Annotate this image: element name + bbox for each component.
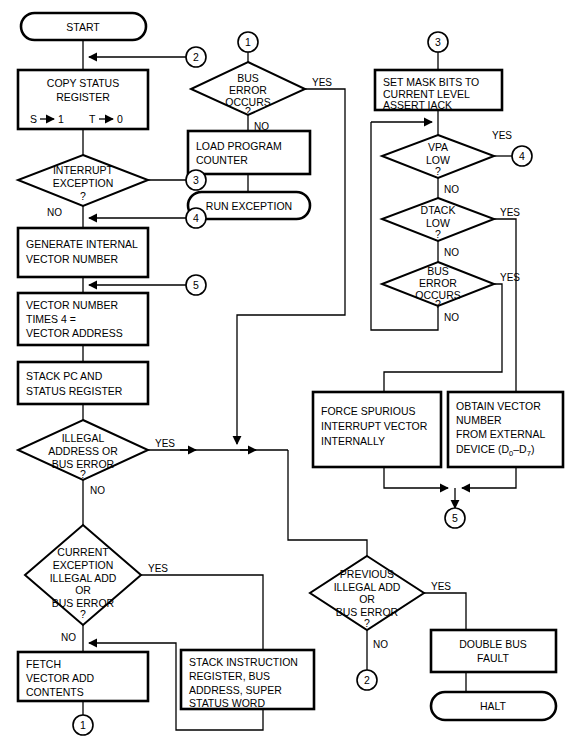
fetch-vector-line3: CONTENTS xyxy=(26,686,84,698)
run-exception-label: RUN EXCEPTION xyxy=(206,200,292,212)
connector-tag-1-middle-top: 1 xyxy=(238,32,258,52)
process-stack-instruction: STACK INSTRUCTION REGISTER, BUS ADDRESS,… xyxy=(181,650,314,709)
connector-tag-3-left-label: 3 xyxy=(193,174,199,186)
right-bus-error-no-label: NO xyxy=(444,312,459,323)
terminal-halt: HALT xyxy=(431,692,556,720)
dtack-low-no-label: NO xyxy=(444,247,459,258)
connector-tag-3-right-top-label: 3 xyxy=(435,36,441,48)
copy-status-s: S xyxy=(30,113,37,125)
connector-tag-3-left: 3 xyxy=(186,170,206,190)
interrupt-exception-line1: INTERRUPT xyxy=(53,164,114,176)
connector-tag-2-left: 2 xyxy=(186,47,206,67)
connector-tag-4-left: 4 xyxy=(186,208,206,228)
interrupt-exception-line3: ? xyxy=(80,190,86,202)
fetch-vector-line2: VECTOR ADD xyxy=(26,672,94,684)
decision-illegal-address-or-bus-error: ILLEGAL ADDRESS OR BUS ERROR ? YES NO xyxy=(18,420,175,496)
current-exception-no-label: NO xyxy=(61,632,76,643)
right-bus-error-line4: ? xyxy=(435,298,441,310)
current-exception-yes-label: YES xyxy=(148,563,168,574)
copy-status-line1: COPY STATUS xyxy=(47,77,119,89)
illegal-address-no-label: NO xyxy=(90,485,105,496)
connector-tag-4-vpa: 4 xyxy=(512,146,532,166)
process-force-spurious: FORCE SPURIOUS INTERRUPT VECTOR INTERNAL… xyxy=(313,392,441,467)
mid-bus-error-line4: ? xyxy=(245,105,251,117)
interrupt-exception-no-label: NO xyxy=(47,207,62,218)
connector-tag-5-merge: 5 xyxy=(445,508,465,528)
mid-bus-error-yes-label: YES xyxy=(312,77,332,88)
set-mask-line1: SET MASK BITS TO xyxy=(383,76,479,88)
stack-instruction-line3: ADDRESS, SUPER xyxy=(189,684,282,696)
connector-tag-2-left-label: 2 xyxy=(193,51,199,63)
line-previous-yes xyxy=(424,593,466,630)
obtain-vector-line3: FROM EXTERNAL xyxy=(456,428,545,440)
process-copy-status-register: COPY STATUS REGISTER S 1 T 0 xyxy=(18,70,148,129)
previous-illegal-line3: OR xyxy=(359,593,375,605)
connector-tag-1-middle-top-label: 1 xyxy=(245,36,251,48)
stack-pc-line1: STACK PC AND xyxy=(26,370,103,382)
mid-bus-error-line1: BUS xyxy=(237,72,259,84)
force-spurious-line2: INTERRUPT VECTOR xyxy=(321,420,428,432)
previous-illegal-line1: PREVIOUS xyxy=(340,568,394,580)
illegal-address-line2: ADDRESS OR xyxy=(48,445,118,457)
vpa-low-yes-label: YES xyxy=(492,130,512,141)
interrupt-exception-line2: EXCEPTION xyxy=(53,177,114,189)
illegal-address-yes-label: YES xyxy=(155,438,175,449)
double-bus-fault-line2: FAULT xyxy=(477,652,509,664)
previous-illegal-no-label: NO xyxy=(373,639,388,650)
vector-times-line3: VECTOR ADDRESS xyxy=(26,327,123,339)
current-exception-line4: OR xyxy=(75,584,91,596)
generate-vector-line2: VECTOR NUMBER xyxy=(26,253,118,265)
vector-times-line1: VECTOR NUMBER xyxy=(26,299,118,311)
current-exception-line6: ? xyxy=(80,608,86,620)
exception-processing-flowchart: START COPY STATUS REGISTER S 1 T 0 INTER… xyxy=(0,0,583,746)
connector-tag-3-right-top: 3 xyxy=(428,32,448,52)
terminal-halt-label: HALT xyxy=(480,700,507,712)
process-load-program-counter: LOAD PROGRAM COUNTER xyxy=(188,131,310,174)
decision-current-exception: CURRENT EXCEPTION ILLEGAL ADD OR BUS ERR… xyxy=(25,525,168,643)
connector-tag-5-merge-label: 5 xyxy=(452,512,458,524)
previous-illegal-yes-label: YES xyxy=(431,581,451,592)
dtack-low-yes-label: YES xyxy=(500,207,520,218)
previous-illegal-line2: ILLEGAL ADD xyxy=(334,581,401,593)
obtain-vector-line1: OBTAIN VECTOR xyxy=(456,400,541,412)
copy-status-one: 1 xyxy=(58,113,64,125)
line-force-to-merge xyxy=(384,467,448,488)
process-obtain-vector: OBTAIN VECTOR NUMBER FROM EXTERNAL DEVIC… xyxy=(448,392,563,467)
dtack-low-line3: ? xyxy=(435,228,441,240)
connector-tag-2-bottom: 2 xyxy=(357,670,377,690)
decision-dtack-low: DTACK LOW ? YES NO xyxy=(382,198,520,258)
stack-pc-line2: STATUS REGISTER xyxy=(26,385,123,397)
copy-status-t: T xyxy=(89,113,96,125)
stack-instruction-line4: STATUS WORD xyxy=(189,697,265,709)
decision-vpa-low: VPA LOW ? YES NO xyxy=(382,130,512,195)
obtain-vector-paren: ) xyxy=(531,443,535,455)
load-pc-line1: LOAD PROGRAM xyxy=(196,140,282,152)
illegal-address-line4: ? xyxy=(80,468,86,480)
terminal-start-label: START xyxy=(66,21,100,33)
process-set-mask-bits: SET MASK BITS TO CURRENT LEVEL ASSERT IA… xyxy=(375,70,502,111)
connector-tag-1-bottom-label: 1 xyxy=(80,719,86,731)
process-double-bus-fault: DOUBLE BUS FAULT xyxy=(431,630,556,672)
process-fetch-vector-add: FETCH VECTOR ADD CONTENTS xyxy=(18,652,148,701)
obtain-vector-device: DEVICE (D xyxy=(456,443,510,455)
vpa-low-line3: ? xyxy=(435,165,441,177)
force-spurious-line3: INTERNALLY xyxy=(321,435,385,447)
right-bus-error-line2: ERROR xyxy=(419,277,457,289)
current-exception-line1: CURRENT xyxy=(57,546,109,558)
load-pc-line2: COUNTER xyxy=(196,154,248,166)
fetch-vector-line1: FETCH xyxy=(26,658,61,670)
process-stack-pc-status: STACK PC AND STATUS REGISTER xyxy=(18,362,148,404)
force-spurious-line1: FORCE SPURIOUS xyxy=(321,405,416,417)
set-mask-line3: ASSERT IACK xyxy=(383,99,452,111)
decision-bus-error-occurs-middle: BUS ERROR OCCURS ? YES NO xyxy=(191,62,332,132)
right-bus-error-line1: BUS xyxy=(427,265,449,277)
process-vector-times-four: VECTOR NUMBER TIMES 4 = VECTOR ADDRESS xyxy=(18,293,148,345)
connector-tag-4-vpa-label: 4 xyxy=(519,150,525,162)
connector-tag-5-left: 5 xyxy=(186,275,206,295)
illegal-address-line1: ILLEGAL xyxy=(62,432,105,444)
mid-bus-error-line2: ERROR xyxy=(229,84,267,96)
generate-vector-line1: GENERATE INTERNAL xyxy=(26,238,138,250)
connector-tag-4-left-label: 4 xyxy=(193,212,199,224)
terminal-start: START xyxy=(21,13,146,40)
line-obtain-to-merge xyxy=(462,467,516,488)
